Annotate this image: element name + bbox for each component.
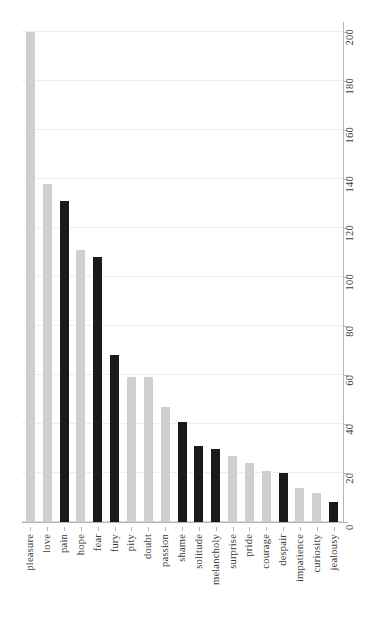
x-tick: [266, 527, 267, 531]
bar-slot: [174, 22, 191, 522]
bar-slot: [56, 22, 73, 522]
x-axis-label-shame: shame: [177, 534, 188, 562]
bar-slot: [241, 22, 258, 522]
x-tick: [199, 527, 200, 531]
bar-passion[interactable]: [161, 407, 170, 522]
bar-slot: [224, 22, 241, 522]
x-tick: [81, 527, 82, 531]
y-axis-line: [343, 22, 344, 523]
x-axis-label-courage: courage: [261, 534, 272, 569]
bar-pain[interactable]: [60, 201, 69, 522]
x-label-slot: fury: [106, 527, 123, 615]
bar-melancholy[interactable]: [211, 449, 220, 523]
x-label-slot: curiosity: [308, 527, 325, 615]
bar-slot: [89, 22, 106, 522]
x-tick: [98, 527, 99, 531]
x-label-slot: love: [39, 527, 56, 615]
x-label-slot: pain: [56, 527, 73, 615]
x-axis-labels: pleasurelovepainhopefearfurypitydoubtpas…: [22, 527, 342, 615]
x-tick: [233, 527, 234, 531]
x-axis-label-fury: fury: [109, 534, 120, 552]
x-tick: [334, 527, 335, 531]
x-axis-label-impatience: impatience: [295, 534, 306, 582]
bar-slot: [258, 22, 275, 522]
x-axis-label-love: love: [42, 534, 53, 553]
bar-fear[interactable]: [93, 257, 102, 522]
x-axis-label-hope: hope: [76, 534, 87, 555]
x-label-slot: jealousy: [325, 527, 342, 615]
x-tick: [216, 527, 217, 531]
bar-slot: [275, 22, 292, 522]
bar-slot: [140, 22, 157, 522]
bar-pride[interactable]: [245, 463, 254, 522]
y-tick-label: 80: [345, 326, 356, 337]
bar-solitude[interactable]: [194, 446, 203, 522]
x-label-slot: impatience: [292, 527, 309, 615]
x-label-slot: melancholy: [207, 527, 224, 615]
y-tick: [343, 522, 348, 523]
x-tick: [64, 527, 65, 531]
x-axis-label-pain: pain: [59, 534, 70, 553]
bar-hope[interactable]: [76, 250, 85, 522]
y-tick-label: 20: [345, 473, 356, 484]
bar-impatience[interactable]: [295, 488, 304, 522]
bar-fury[interactable]: [110, 355, 119, 522]
y-tick-label: 160: [345, 127, 356, 143]
x-tick: [317, 527, 318, 531]
y-tick-label: 0: [345, 525, 356, 530]
y-tick-label: 100: [345, 274, 356, 290]
x-axis-label-jealousy: jealousy: [328, 534, 339, 571]
x-axis-label-doubt: doubt: [143, 534, 154, 559]
x-tick: [249, 527, 250, 531]
x-label-slot: hope: [73, 527, 90, 615]
bar-slot: [22, 22, 39, 522]
bar-jealousy[interactable]: [329, 502, 338, 522]
bar-shame[interactable]: [178, 422, 187, 522]
bar-slot: [292, 22, 309, 522]
y-axis: 020406080100120140160180200: [343, 0, 344, 617]
x-axis-label-fear: fear: [93, 534, 104, 551]
bar-chart: 020406080100120140160180200 pleasurelove…: [0, 0, 390, 617]
x-tick: [182, 527, 183, 531]
x-label-slot: fear: [89, 527, 106, 615]
bar-slot: [190, 22, 207, 522]
x-tick: [300, 527, 301, 531]
x-label-slot: shame: [174, 527, 191, 615]
bar-pity[interactable]: [127, 377, 136, 522]
bar-despair[interactable]: [279, 473, 288, 522]
x-tick: [131, 527, 132, 531]
x-label-slot: pleasure: [22, 527, 39, 615]
x-tick: [283, 527, 284, 531]
x-axis-label-pride: pride: [244, 534, 255, 557]
x-axis-label-surprise: surprise: [227, 534, 238, 569]
bar-pleasure[interactable]: [26, 32, 35, 522]
bar-surprise[interactable]: [228, 456, 237, 522]
x-axis-label-solitude: solitude: [194, 534, 205, 569]
plot-area: [22, 22, 342, 522]
bar-curiosity[interactable]: [312, 493, 321, 522]
x-label-slot: passion: [157, 527, 174, 615]
y-tick-label: 200: [345, 29, 356, 45]
x-tick: [165, 527, 166, 531]
bar-slot: [308, 22, 325, 522]
x-label-slot: courage: [258, 527, 275, 615]
x-label-slot: doubt: [140, 527, 157, 615]
bar-slot: [207, 22, 224, 522]
bar-series: [22, 22, 342, 522]
x-label-slot: surprise: [224, 527, 241, 615]
x-axis-line: [22, 522, 343, 523]
y-tick-label: 40: [345, 424, 356, 435]
x-tick: [47, 527, 48, 531]
x-axis-label-melancholy: melancholy: [210, 534, 221, 585]
bar-slot: [123, 22, 140, 522]
x-label-slot: pity: [123, 527, 140, 615]
y-tick-label: 140: [345, 176, 356, 192]
y-tick-label: 180: [345, 78, 356, 94]
x-label-slot: solitude: [190, 527, 207, 615]
bar-doubt[interactable]: [144, 377, 153, 522]
bar-love[interactable]: [43, 184, 52, 522]
bar-courage[interactable]: [262, 471, 271, 522]
y-tick-label: 60: [345, 375, 356, 386]
x-label-slot: despair: [275, 527, 292, 615]
bar-slot: [106, 22, 123, 522]
